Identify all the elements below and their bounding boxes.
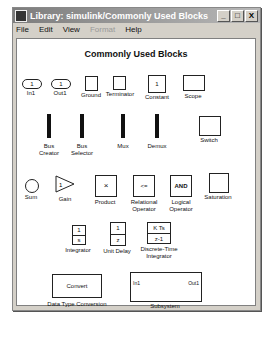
gain-icon: 1: [55, 175, 75, 193]
maximize-button[interactable]: □: [231, 10, 244, 22]
menu-format: Format: [90, 25, 115, 34]
dt-integrator-den: z-1: [148, 234, 170, 244]
menu-edit[interactable]: Edit: [39, 25, 53, 34]
discrete-time-integrator-label-2: Integrator: [137, 253, 181, 260]
mux-icon: [121, 114, 125, 138]
scope-label: Scope: [180, 93, 206, 100]
discrete-time-integrator-icon: K Tsz-1: [147, 222, 171, 244]
terminator-icon: [113, 76, 126, 90]
demux-icon: [155, 114, 159, 138]
menu-file[interactable]: File: [16, 25, 29, 34]
unit-delay-num: 1: [111, 223, 125, 235]
demux-label: Demux: [143, 143, 171, 150]
menu-bar: File Edit View Format Help: [13, 23, 260, 36]
ground-label: Ground: [77, 92, 105, 99]
in1-label: In1: [21, 90, 41, 97]
simulink-app-icon: [15, 10, 27, 22]
gain-label: Gain: [53, 196, 77, 203]
switch-label: Switch: [195, 137, 223, 144]
product-icon: ×: [95, 175, 117, 197]
integrator-num: 1: [73, 226, 85, 236]
title-bar[interactable]: Library: simulink/Commonly Used Blocks _…: [13, 8, 260, 23]
integrator-label: Integrator: [62, 247, 94, 254]
library-heading: Commonly Used Blocks: [17, 49, 255, 59]
logical-operator-label-1: Logical: [164, 199, 198, 206]
unit-delay-icon: 1z: [110, 222, 126, 246]
constant-label: Constant: [142, 94, 172, 101]
unit-delay-den: z: [111, 235, 125, 246]
bus-creator-label-2: Creator: [35, 150, 63, 157]
terminator-label: Terminator: [105, 91, 135, 98]
unit-delay-label: Unit Delay: [101, 248, 133, 255]
logical-operator-icon: AND: [170, 175, 192, 197]
bus-creator-label-1: Bus: [37, 143, 61, 150]
out1-icon: 1: [51, 79, 71, 89]
data-type-conversion-label: Data Type Conversion: [39, 301, 115, 308]
relational-operator-label-2: Operator: [127, 206, 161, 213]
ground-icon: [85, 76, 98, 91]
bus-selector-label-2: Selector: [67, 150, 97, 157]
data-type-conversion-icon: Convert: [52, 274, 102, 298]
discrete-time-integrator-label-1: Discrete-Time: [137, 246, 181, 253]
saturation-label: Saturation: [202, 194, 234, 201]
relational-operator-label-1: Relational: [127, 199, 161, 206]
close-button[interactable]: X: [245, 10, 258, 22]
constant-icon: 1: [148, 75, 166, 93]
out1-label: Out1: [50, 90, 70, 97]
relational-operator-icon: <=: [133, 175, 155, 197]
minimize-button[interactable]: _: [217, 10, 230, 22]
saturation-icon: [209, 173, 229, 193]
subsystem-out-port: Out1: [188, 281, 199, 286]
logical-operator-label-2: Operator: [164, 206, 198, 213]
integrator-den: s: [73, 236, 85, 245]
subsystem-in-port: In1: [133, 281, 140, 286]
menu-view[interactable]: View: [63, 25, 80, 34]
in1-icon: 1: [22, 79, 42, 89]
library-canvas: Commonly Used Blocks 1 In1 1 Out1 Ground…: [16, 38, 256, 306]
dt-integrator-num: K Ts: [148, 223, 170, 234]
sum-icon: [25, 179, 39, 193]
subsystem-icon: In1 Out1: [130, 272, 202, 302]
product-label: Product: [91, 199, 119, 206]
mux-label: Mux: [112, 143, 134, 150]
window-title: Library: simulink/Commonly Used Blocks: [30, 11, 216, 21]
library-window: Library: simulink/Commonly Used Blocks _…: [12, 7, 261, 311]
scope-icon: [183, 75, 205, 91]
subsystem-label: Subsystem: [145, 303, 185, 310]
bus-selector-icon: [80, 114, 84, 138]
integrator-icon: 1s: [72, 225, 86, 245]
switch-icon: [199, 116, 221, 136]
sum-label: Sum: [21, 194, 41, 201]
menu-help[interactable]: Help: [125, 25, 141, 34]
bus-selector-label-1: Bus: [70, 143, 94, 150]
bus-creator-icon: [47, 114, 51, 138]
